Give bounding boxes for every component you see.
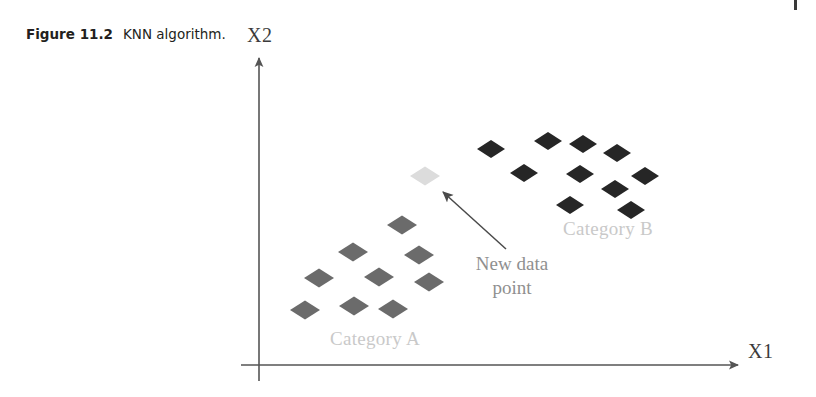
data-point-marker [601, 180, 629, 198]
data-point-marker [566, 165, 594, 183]
data-point-marker [569, 135, 597, 153]
annotation-arrow-group [443, 192, 506, 249]
category-a-label: Category A [330, 328, 420, 350]
new-point-callout-arrow [443, 192, 506, 249]
data-point-marker [556, 196, 584, 214]
axes [241, 58, 738, 381]
data-point-marker [364, 268, 394, 287]
data-point-marker [304, 269, 334, 288]
series-new-data-point [410, 167, 440, 186]
data-point-marker [378, 300, 408, 319]
data-point-marker [603, 144, 631, 162]
series-category-b [477, 132, 659, 219]
page-edge-mark [794, 0, 797, 10]
data-point-marker [631, 167, 659, 185]
data-point-marker [387, 216, 417, 235]
category-b-label: Category B [563, 218, 653, 240]
x-axis-label: X1 [748, 340, 773, 363]
data-point-marker [404, 246, 434, 265]
series-category-a [290, 216, 444, 320]
new-data-point-label: New data point [452, 252, 572, 300]
data-point-marker [617, 201, 645, 219]
data-point-marker [477, 140, 505, 158]
data-point-marker [338, 243, 368, 262]
data-point-marker [290, 301, 320, 320]
data-point-marker [534, 132, 562, 150]
figure-page: Figure 11.2KNN algorithm. X2 X1 Category… [0, 0, 816, 397]
y-axis-label: X2 [247, 24, 272, 47]
data-point-marker [414, 273, 444, 292]
data-point-marker [339, 297, 369, 316]
data-point-marker [410, 167, 440, 186]
data-point-marker [510, 164, 538, 182]
